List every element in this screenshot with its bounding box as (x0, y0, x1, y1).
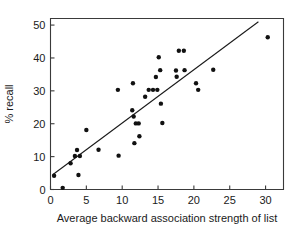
y-axis-title: % recall (3, 84, 15, 123)
data-point (157, 55, 161, 59)
data-point (73, 154, 77, 158)
data-point (160, 121, 164, 125)
data-point (154, 75, 158, 79)
data-point (84, 128, 88, 132)
y-tick-label: 40 (33, 52, 45, 64)
y-axis: 01020304050 (33, 19, 54, 195)
data-point (147, 88, 151, 92)
data-point (131, 81, 135, 85)
data-point (136, 121, 140, 125)
data-point (116, 153, 120, 157)
y-tick-label: 10 (33, 151, 45, 163)
data-point (78, 154, 82, 158)
x-tick-label: 5 (83, 194, 89, 206)
scatter-plot-figure: 01020304050 051015202530 Average backwar… (0, 0, 291, 232)
x-tick-label: 30 (259, 194, 271, 206)
x-axis-title: Average backward association strength of… (57, 212, 278, 224)
data-point (137, 134, 141, 138)
data-point (177, 49, 181, 53)
data-point (52, 173, 56, 177)
data-point (143, 95, 147, 99)
x-tick-label: 20 (188, 194, 200, 206)
data-point (159, 101, 163, 105)
x-tick-label: 0 (47, 194, 53, 206)
data-point (194, 81, 198, 85)
data-point (211, 68, 215, 72)
x-axis: 051015202530 (47, 186, 271, 206)
y-tick-label: 30 (33, 85, 45, 97)
data-point (60, 186, 64, 190)
y-tick-label: 0 (39, 184, 45, 196)
x-tick-label: 10 (116, 194, 128, 206)
data-point (96, 148, 100, 152)
data-point (158, 68, 162, 72)
data-point (76, 173, 80, 177)
data-point (132, 141, 136, 145)
data-point (116, 88, 120, 92)
data-point (75, 148, 79, 152)
data-point (68, 161, 72, 165)
data-point (130, 108, 134, 112)
data-point (155, 88, 159, 92)
chart-canvas: 01020304050 051015202530 Average backwar… (0, 0, 291, 232)
data-point (182, 49, 186, 53)
data-point (182, 68, 186, 72)
y-tick-label: 50 (33, 19, 45, 31)
x-tick-label: 25 (224, 194, 236, 206)
data-point (174, 68, 178, 72)
data-point (151, 88, 155, 92)
data-point (266, 35, 270, 39)
data-point (196, 88, 200, 92)
data-points (52, 35, 270, 190)
y-tick-label: 20 (33, 118, 45, 130)
x-tick-label: 15 (152, 194, 164, 206)
regression-line (53, 22, 259, 175)
data-point (174, 75, 178, 79)
data-point (131, 114, 135, 118)
plot-frame (51, 19, 284, 190)
